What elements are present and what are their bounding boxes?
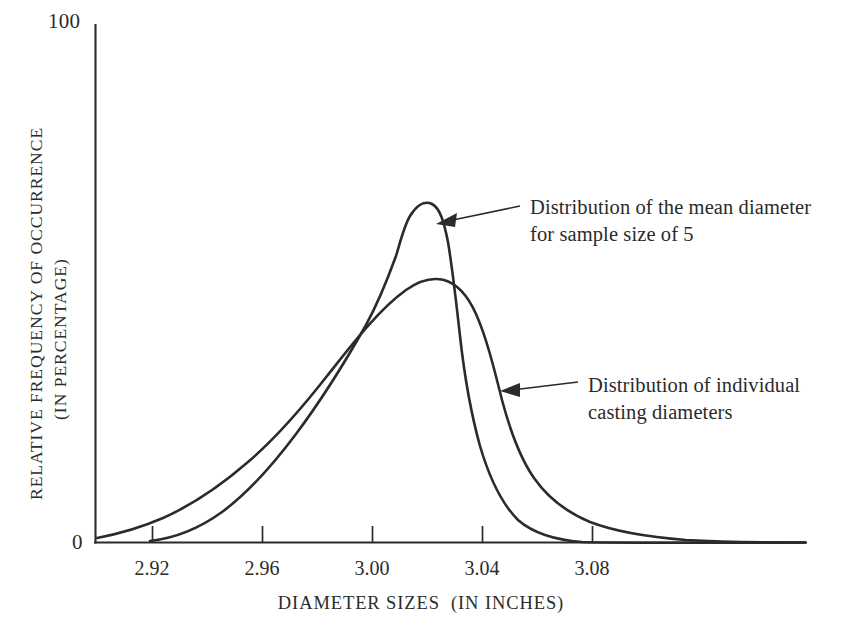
- annotation-individual-line-1: Distribution of individual: [588, 372, 800, 399]
- y-axis-max-label: 100: [48, 8, 80, 34]
- annotation-individual-line-2: casting diameters: [588, 399, 800, 426]
- annotation-mean-line-1: Distribution of the mean diameter: [530, 194, 811, 221]
- y-axis-title-line-1: RELATIVE FREQUENCY OF OCCURRENCE: [26, 127, 47, 500]
- x-tick-label-3: 3.00: [327, 556, 417, 581]
- x-axis-title: DIAMETER SIZES (IN INCHES): [0, 592, 842, 615]
- x-tick-label-2: 2.96: [217, 556, 307, 581]
- annotation-individual-castings: Distribution of individual casting diame…: [588, 372, 800, 426]
- chart-plot-area: [0, 0, 842, 633]
- annotation-leader-mean: [436, 206, 520, 227]
- chart-figure: 100 0 2.92 2.96 3.00 3.04 3.08 DIAMETER …: [0, 0, 842, 633]
- y-axis-title-line-2: (IN PERCENTAGE): [50, 258, 71, 420]
- x-tick-label-1: 2.92: [107, 556, 197, 581]
- annotation-mean-line-2: for sample size of 5: [530, 221, 811, 248]
- x-tick-label-5: 3.08: [547, 556, 637, 581]
- annotation-mean-diameter: Distribution of the mean diameter for sa…: [530, 194, 811, 248]
- x-tick-label-4: 3.04: [437, 556, 527, 581]
- annotation-leader-individual: [500, 382, 578, 397]
- y-axis-min-label: 0: [72, 529, 83, 555]
